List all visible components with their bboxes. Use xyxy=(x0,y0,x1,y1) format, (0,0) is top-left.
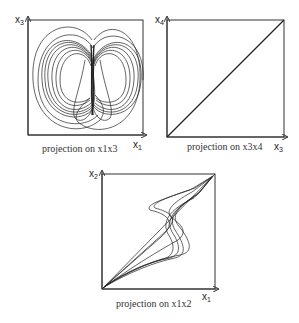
axis-label-x1-panel1: x1 xyxy=(133,140,142,151)
axis-label-x3-panel2: x3 xyxy=(274,142,283,153)
figure: x3 x1 x4 x3 x2 x1 projection on x1x3 pro… xyxy=(0,0,299,323)
caption-x3x4: projection on x3x4 xyxy=(187,142,263,152)
axis-label-x3-panel1: x3 xyxy=(15,15,24,26)
panel-x3x4 xyxy=(167,17,287,137)
diagonal-trajectory xyxy=(167,20,284,137)
trajectories-x1x2 xyxy=(102,174,215,289)
panel-x1x3 xyxy=(28,17,146,135)
axis-label-x2-panel3: x2 xyxy=(89,169,98,180)
projection-plots xyxy=(0,0,299,323)
panel-x1x2 xyxy=(102,171,218,289)
caption-x1x3: projection on x1x3 xyxy=(42,144,118,154)
axis-label-x4-panel2: x4 xyxy=(155,15,164,26)
caption-x1x2: projection on x1x2 xyxy=(116,299,192,309)
attractor-x1x3 xyxy=(33,27,143,129)
axis-label-x1-panel3: x1 xyxy=(202,292,211,303)
